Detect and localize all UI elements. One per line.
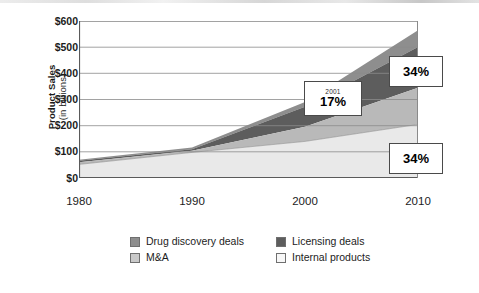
y-axis-tick-labels: $600 $500 $400 $300 $200 $100 $0 [14,0,78,293]
legend-swatch-icon [276,237,286,247]
legend-swatch-icon [276,253,286,263]
legend-item-drug-discovery-deals: Drug discovery deals [130,236,244,247]
x-tick-1990: 1990 [179,195,205,207]
x-tick-1980: 1980 [66,195,92,207]
y-tick-500: $500 [34,42,78,53]
legend-item-licensing-deals: Licensing deals [276,236,364,247]
stacked-area-chart: Product Sales (in billions) $600 $500 $4… [0,0,479,293]
chart-legend: Drug discovery deals M&A Licensing deals… [130,236,410,272]
legend-swatch-icon [130,253,140,263]
legend-label: M&A [146,252,169,263]
legend-label: Drug discovery deals [146,236,244,247]
legend-swatch-icon [130,237,140,247]
annotation-callout-2001: 2001 17% [304,81,362,116]
legend-item-internal-products: Internal products [276,252,370,263]
y-tick-0: $0 [34,173,78,184]
annotation-value-label: 34% [403,152,429,166]
legend-label: Internal products [292,252,370,263]
annotation-callout-internal-2010: 34% [389,143,443,174]
y-tick-600: $600 [34,16,78,27]
annotation-value-label: 17% [320,95,346,109]
annotation-value-label: 34% [403,65,429,79]
plot-area [79,21,418,178]
y-tick-200: $200 [34,120,78,131]
legend-item-m-and-a: M&A [130,252,169,263]
annotation-callout-licensing-2010: 34% [389,56,443,87]
y-tick-100: $100 [34,146,78,157]
x-tick-2000: 2000 [292,195,318,207]
y-tick-400: $400 [34,68,78,79]
x-axis-tick-labels: 1980 1990 2000 2010 [0,195,479,215]
x-tick-2010: 2010 [405,195,431,207]
legend-label: Licensing deals [292,236,364,247]
y-tick-300: $300 [34,94,78,105]
